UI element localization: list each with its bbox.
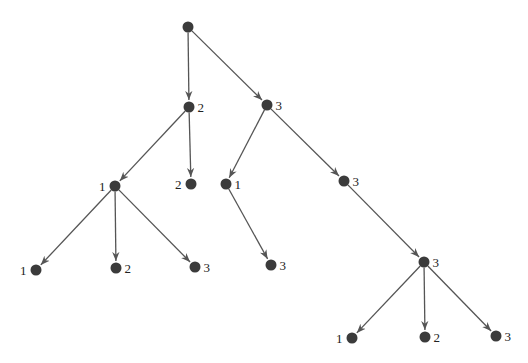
node-label: 3 xyxy=(280,258,287,273)
tree-node xyxy=(491,331,502,342)
tree-node xyxy=(221,179,232,190)
edge-arrow xyxy=(189,112,191,177)
node-label: 3 xyxy=(353,174,360,189)
node-label: 3 xyxy=(204,260,211,275)
node-label: 1 xyxy=(336,331,343,346)
edge-arrow xyxy=(188,32,189,100)
label-layer: 23121312333123 xyxy=(20,98,511,346)
node-label: 2 xyxy=(434,330,441,345)
tree-node xyxy=(420,332,431,343)
edge-arrow xyxy=(348,185,419,257)
node-label: 3 xyxy=(505,329,512,344)
tree-node xyxy=(266,260,277,271)
edge-arrow xyxy=(271,109,339,176)
tree-node xyxy=(184,102,195,113)
node-label: 1 xyxy=(99,179,106,194)
tree-node xyxy=(190,262,201,273)
tree-node xyxy=(186,179,197,190)
edge-arrow xyxy=(115,191,116,261)
tree-node xyxy=(419,257,430,268)
node-label: 2 xyxy=(125,261,132,276)
edge-arrow xyxy=(229,189,268,259)
edge-arrow xyxy=(120,111,185,181)
tree-diagram: 23121312333123 xyxy=(0,0,528,363)
node-label: 1 xyxy=(20,263,27,278)
node-label: 3 xyxy=(276,98,283,113)
tree-node xyxy=(183,22,194,33)
tree-node xyxy=(339,176,350,187)
tree-node xyxy=(111,263,122,274)
edge-arrow xyxy=(357,266,420,333)
edge-arrow xyxy=(229,110,264,178)
edge-arrow xyxy=(192,31,262,100)
tree-node xyxy=(347,333,358,344)
edge-arrow xyxy=(428,266,491,331)
node-label: 3 xyxy=(433,255,440,270)
edge-arrow xyxy=(424,267,425,330)
edge-arrow xyxy=(119,190,190,262)
node-label: 2 xyxy=(198,100,205,115)
tree-node xyxy=(110,181,121,192)
node-label: 1 xyxy=(235,177,242,192)
tree-node xyxy=(31,265,42,276)
edge-layer xyxy=(41,31,491,333)
edge-arrow xyxy=(41,190,111,265)
tree-node xyxy=(262,100,273,111)
node-label: 2 xyxy=(175,177,182,192)
